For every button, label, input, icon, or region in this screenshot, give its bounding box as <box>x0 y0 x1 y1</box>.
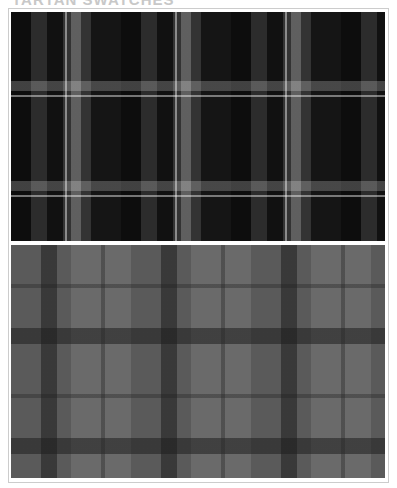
cropped-title: TARTAN SWATCHES <box>12 0 175 8</box>
dark-tartan-swatch <box>11 12 385 241</box>
grey-tartan-swatch <box>11 245 385 478</box>
